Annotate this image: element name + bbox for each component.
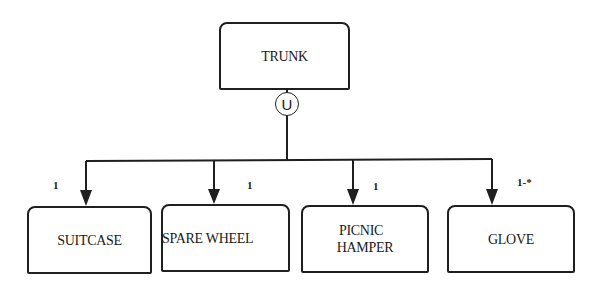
union-symbol: U [282, 96, 293, 113]
picnic-hamper-node: PICNIC HAMPER [301, 205, 429, 273]
trunk-label: TRUNK [261, 48, 308, 65]
spare-wheel-multiplicity: 1 [247, 179, 253, 191]
picnic-hamper-multiplicity: 1 [373, 180, 379, 192]
suitcase-multiplicity: 1 [53, 179, 59, 191]
glove-multiplicity: 1-* [517, 176, 532, 188]
spare-wheel-label: SPARE WHEEL [162, 230, 253, 247]
trunk-node: TRUNK [219, 22, 350, 90]
glove-label: GLOVE [488, 231, 534, 248]
picnic-hamper-label-line2: HAMPER [337, 239, 394, 256]
picnic-hamper-label-line1: PICNIC [339, 222, 383, 239]
suitcase-node: SUITCASE [27, 206, 152, 274]
glove-node: GLOVE [447, 205, 575, 273]
spare-wheel-node: SPARE WHEEL [161, 204, 290, 272]
suitcase-label: SUITCASE [57, 232, 122, 249]
union-connector-icon: U [275, 92, 299, 116]
